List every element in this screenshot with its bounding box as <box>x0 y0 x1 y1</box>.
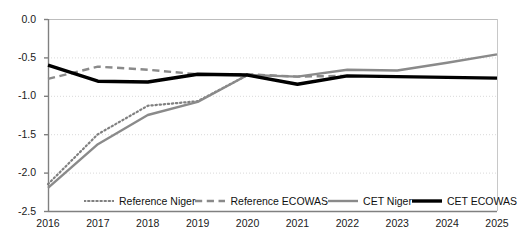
x-tick-label: 2019 <box>186 218 209 229</box>
x-tick-label: 2016 <box>36 218 59 229</box>
axis-lines <box>48 19 498 212</box>
x-tick-label: 2025 <box>485 218 508 229</box>
data-series <box>48 54 497 188</box>
x-axis-tick-labels: 2016201720182019202020212022202320242025 <box>0 218 514 236</box>
x-tick-label: 2024 <box>435 218 458 229</box>
x-tick-label: 2018 <box>136 218 159 229</box>
x-tick-label: 2021 <box>286 218 309 229</box>
axis-ticks <box>44 20 48 212</box>
x-tick-label: 2023 <box>386 218 409 229</box>
x-tick-label: 2022 <box>336 218 359 229</box>
x-tick-label: 2017 <box>86 218 109 229</box>
gridlines <box>48 20 497 174</box>
x-tick-label: 2020 <box>236 218 259 229</box>
